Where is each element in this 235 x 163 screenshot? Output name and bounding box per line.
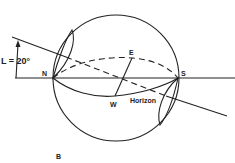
panel-label: B [56, 153, 61, 160]
angle-arrow-icon [16, 40, 21, 47]
diagram-svg: L = 20° N S E W Horizon B [0, 0, 235, 163]
horizon-back [53, 58, 178, 78]
horizon-label: Horizon [130, 97, 156, 104]
polar-axis-hidden [66, 57, 166, 96]
angle-label: L = 20° [1, 56, 31, 66]
polar-axis-lower [166, 96, 227, 116]
right-polar-circle [159, 78, 178, 125]
south-label: S [181, 70, 186, 77]
celestial-sphere-diagram: L = 20° N S E W Horizon B [0, 0, 235, 163]
north-label: N [42, 70, 47, 77]
east-label: E [129, 49, 134, 56]
west-label: W [110, 101, 117, 108]
